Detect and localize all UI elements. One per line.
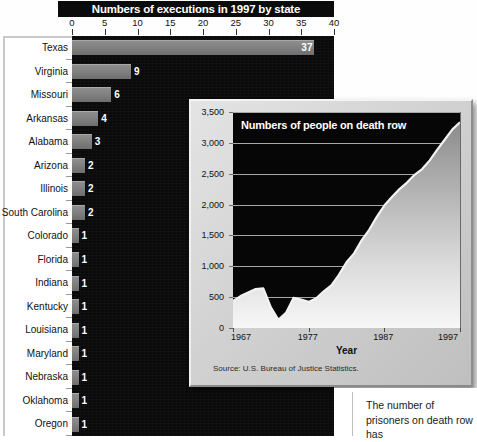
column-rule-divider [352, 392, 353, 436]
axis-tick-mark [105, 29, 106, 35]
x-axis-tick-label: 1967 [231, 332, 251, 342]
bar-row-state-label: Arkansas [0, 107, 68, 131]
y-axis-tick-label: 2,500 [201, 169, 224, 179]
x-axis-tick-label: 1997 [438, 332, 458, 342]
bar-value-label: 1 [82, 276, 88, 291]
y-axis-tick-label: 2,000 [201, 200, 224, 210]
bar-value-label: 1 [82, 393, 88, 408]
bar [72, 346, 79, 361]
y-axis-tick-label: 500 [209, 292, 224, 302]
bar-row-state-label: Virginia [0, 60, 68, 84]
y-axis-tick-label: 3,000 [201, 138, 224, 148]
axis-tick-mark [301, 29, 302, 35]
bar-value-label: 1 [82, 228, 88, 243]
axis-tick-mark [334, 29, 335, 35]
bar-value-label: 9 [134, 64, 140, 79]
bar [72, 252, 79, 267]
death-row-area-series [233, 112, 460, 328]
axis-tick-label: 10 [132, 17, 143, 28]
axis-tick-mark [138, 29, 139, 35]
bar-row-state-label: Kentucky [0, 295, 68, 319]
bar [72, 393, 79, 408]
bar [72, 299, 79, 314]
body-paragraph: The number of prisoners on death row has [366, 398, 477, 442]
bar-value-label: 6 [114, 87, 120, 102]
axis-tick-label: 40 [329, 17, 340, 28]
axis-tick-label: 0 [69, 17, 74, 28]
axis-tick-label: 20 [198, 17, 209, 28]
axis-tick-label: 5 [102, 17, 107, 28]
bar [72, 276, 79, 291]
bar-chart-title: Numbers of executions in 1997 by state [58, 1, 334, 17]
bar-value-label: 1 [82, 417, 88, 432]
y-axis-tick-label: 1,000 [201, 261, 224, 271]
bar-row-state-label: Oklahoma [0, 389, 68, 413]
bar [72, 323, 79, 338]
bar-value-label: 4 [101, 111, 107, 126]
bar-value-label: 1 [82, 252, 88, 267]
bar-row-state-label: Oregon [0, 412, 68, 436]
bar-value-label: 1 [82, 323, 88, 338]
death-row-x-axis-title: Year [233, 345, 460, 356]
bar-row-tick [66, 435, 72, 436]
axis-tick-label: 30 [263, 17, 274, 28]
death-row-plot-area: Numbers of people on death row [233, 112, 461, 328]
bar-value-label: 2 [88, 158, 94, 173]
y-axis-tick-label: 1,500 [201, 230, 224, 240]
death-row-inset-card: Numbers of people on death row 05001,000… [189, 99, 473, 387]
bar [72, 111, 98, 126]
bar-chart-top-axis: 0510152025303540 [0, 17, 477, 36]
bar [72, 181, 85, 196]
bar-row-state-label: Texas [0, 36, 68, 60]
bar-row-state-label: Louisiana [0, 318, 68, 342]
bar-row-state-label: Arizona [0, 154, 68, 178]
bar [72, 370, 79, 385]
bar-chart-row: Texas37 [0, 36, 477, 60]
bar [72, 158, 85, 173]
bar-row-state-label: Missouri [0, 83, 68, 107]
axis-tick-label: 25 [230, 17, 241, 28]
bar [72, 228, 79, 243]
axis-tick-mark [236, 29, 237, 35]
bar-value-label: 3 [95, 134, 101, 149]
axis-tick-mark [170, 29, 171, 35]
x-axis-tick-mark [309, 328, 310, 332]
bar-row-state-label: South Carolina [0, 201, 68, 225]
bar-value-label: 2 [88, 205, 94, 220]
x-axis-tick-label: 1987 [373, 332, 393, 342]
bar-value-label: 37 [301, 40, 312, 55]
bar [72, 64, 131, 79]
bar-row-state-label: Maryland [0, 342, 68, 366]
axis-tick-mark [269, 29, 270, 35]
bar [72, 134, 92, 149]
bar [72, 87, 111, 102]
death-row-source-note: Source: U.S. Bureau of Justice Statistic… [213, 364, 359, 373]
x-axis-tick-mark [460, 328, 461, 332]
bar-value-label: 2 [88, 181, 94, 196]
bar-row-state-label: Colorado [0, 224, 68, 248]
death-row-chart-title: Numbers of people on death row [241, 119, 406, 131]
bar-row-state-label: Indiana [0, 271, 68, 295]
axis-tick-label: 15 [165, 17, 176, 28]
x-axis-tick-mark [384, 328, 385, 332]
x-axis-tick-label: 1977 [298, 332, 318, 342]
bar-row-state-label: Alabama [0, 130, 68, 154]
bar-value-label: 1 [82, 370, 88, 385]
bar-row-state-label: Florida [0, 248, 68, 272]
bar-row-state-label: Illinois [0, 177, 68, 201]
axis-tick-label: 35 [296, 17, 307, 28]
bar [72, 417, 79, 432]
y-axis-tick-label: 0 [219, 323, 224, 333]
bar [72, 205, 85, 220]
bar-value-label: 1 [82, 346, 88, 361]
bar-chart-row: Virginia9 [0, 60, 477, 84]
x-axis-tick-mark [233, 328, 234, 332]
y-axis-tick-label: 3,500 [201, 107, 224, 117]
bar [72, 40, 314, 55]
axis-tick-mark [72, 29, 73, 35]
axis-tick-mark [203, 29, 204, 35]
bar-row-state-label: Nebraska [0, 365, 68, 389]
bar-value-label: 1 [82, 299, 88, 314]
